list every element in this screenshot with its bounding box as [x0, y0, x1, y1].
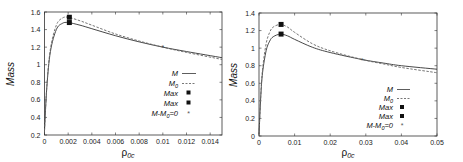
right-y-axis-ticks: 00.20.40.60.811.21.4 — [245, 10, 437, 140]
legend-label-m: M — [172, 69, 179, 78]
x-tick-label: 0.03 — [359, 139, 373, 146]
left-x-axis-ticks: 00.0020.0040.0060.0080.010.0120.014 — [43, 12, 219, 145]
x-tick-label: 0.05 — [430, 139, 444, 146]
x-tick-label: 0.008 — [130, 138, 148, 145]
x-tick-label: 0.012 — [178, 138, 196, 145]
legend-square-marker — [400, 114, 404, 118]
y-tick-label: 0.4 — [31, 114, 41, 121]
left-x-axis-label: ρ0c — [121, 147, 135, 159]
y-tick-label: 0.6 — [31, 96, 41, 103]
x-tick-label: 0 — [257, 139, 261, 146]
max-marker — [279, 32, 284, 37]
right-x-axis-label: ρ0c — [341, 147, 355, 159]
figure: 00.0020.0040.0060.0080.010.0120.014 0.20… — [0, 0, 463, 162]
series-m0-line — [259, 24, 437, 134]
x-tick-label: 0.02 — [323, 139, 337, 146]
legend-label-max1: Max — [379, 103, 393, 112]
right-chart: 00.010.020.030.040.05 00.20.40.60.811.21… — [228, 10, 444, 160]
right-x-axis-ticks: 00.010.020.030.040.05 — [257, 13, 444, 146]
series-m-line — [45, 22, 223, 130]
left-series: * — [45, 15, 223, 131]
y-tick-label: 0.4 — [245, 97, 255, 104]
legend-square-marker — [187, 91, 191, 95]
y-tick-label: 0.2 — [31, 132, 41, 139]
legend-label-diff: M-M0=0 — [151, 109, 178, 119]
series-m-line — [259, 34, 437, 134]
x-tick-label: 0.01 — [288, 139, 302, 146]
y-tick-label: 1.4 — [31, 26, 41, 33]
y-tick-label: 1 — [251, 45, 255, 52]
x-tick-label: 0.014 — [201, 138, 219, 145]
x-tick-label: 0.004 — [83, 138, 101, 145]
x-tick-label: 0.04 — [395, 139, 409, 146]
max-marker — [67, 20, 72, 25]
y-tick-label: 0.2 — [245, 115, 255, 122]
legend-label-max1: Max — [164, 89, 178, 98]
legend-label-max2: Max — [379, 112, 393, 121]
crossing-marker: * — [361, 57, 364, 64]
max-marker — [67, 15, 72, 20]
x-tick-label: 0 — [43, 138, 47, 145]
right-plot-frame — [259, 13, 437, 136]
y-tick-label: 0.8 — [245, 62, 255, 69]
right-y-axis-label: Mass — [228, 63, 239, 87]
y-tick-label: 1.4 — [245, 10, 255, 17]
y-tick-label: 1.2 — [245, 27, 255, 34]
crossing-marker: * — [161, 44, 164, 51]
y-tick-label: 0 — [251, 133, 255, 140]
legend-label-m: M — [387, 85, 394, 94]
max-marker — [279, 22, 284, 27]
legend-label-max2: Max — [164, 99, 178, 108]
right-series: * — [259, 22, 437, 134]
y-tick-label: 1 — [37, 61, 41, 68]
x-tick-label: 0.002 — [59, 138, 77, 145]
y-tick-label: 0.8 — [31, 79, 41, 86]
legend-star-marker: * — [401, 122, 404, 129]
legend-square-marker — [400, 105, 404, 109]
y-tick-label: 0.6 — [245, 80, 255, 87]
left-chart: 00.0020.0040.0060.0080.010.0120.014 0.20… — [5, 9, 222, 160]
left-y-axis-label: Mass — [5, 62, 16, 86]
y-tick-label: 1.2 — [31, 44, 41, 51]
legend-square-marker — [187, 101, 191, 105]
legend-label-diff: M-M0=0 — [366, 121, 393, 131]
legend-label-m0: M0 — [169, 79, 179, 89]
y-tick-label: 1.6 — [31, 9, 41, 16]
x-tick-label: 0.006 — [107, 138, 125, 145]
legend-star-marker: * — [187, 110, 190, 117]
left-legend: M M0 Max Max M-M0=0 * — [151, 69, 196, 119]
x-tick-label: 0.01 — [156, 138, 170, 145]
right-legend: M M0 Max Max M-M0=0 * — [366, 85, 410, 131]
